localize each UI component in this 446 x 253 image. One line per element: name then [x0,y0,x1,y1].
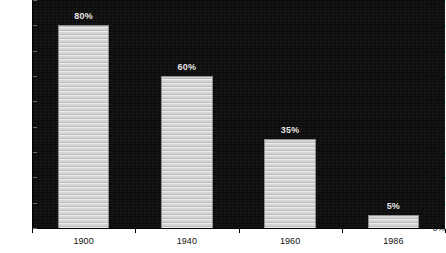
bar-group: 60% [161,0,213,228]
y-axis-tick-label: 90% [417,0,445,5]
y-axis-tick-label: 30% [417,147,445,157]
bar[interactable] [161,76,213,228]
y-axis-tick-mark [33,51,37,52]
y-axis-tick-mark [33,152,37,153]
x-axis-tick-label: 1986 [383,236,403,246]
x-axis-tick-mark [135,229,136,233]
y-axis-tick-label: 40% [417,122,445,132]
x-axis-tick-mark [239,229,240,233]
x-axis-tick-label: 1940 [177,236,197,246]
x-axis-tick-label: 1900 [74,236,94,246]
y-axis-tick-mark [33,127,37,128]
y-axis-tick-mark [33,76,37,77]
y-axis-tick-mark [33,25,37,26]
y-axis-tick-mark [33,177,37,178]
y-axis-tick-label: 50% [417,96,445,106]
y-axis-tick-label: 10% [417,198,445,208]
x-axis-tick-mark [32,229,33,233]
plot-area: 80%60%35%5% [32,0,445,228]
bar-group: 5% [368,0,420,228]
x-axis-tick-mark [342,229,343,233]
bar-value-label: 80% [74,11,93,21]
y-axis-tick-label: 20% [417,172,445,182]
y-axis-tick-label: 60% [417,71,445,81]
y-axis-line [32,0,33,229]
y-axis-tick-mark [33,228,37,229]
bar[interactable] [264,139,316,228]
y-axis-tick-mark [33,101,37,102]
y-axis-tick-mark [33,0,37,1]
bar-group: 35% [264,0,316,228]
bar[interactable] [58,25,110,228]
bar-value-label: 60% [178,62,197,72]
y-axis-tick-label: 0% [417,223,445,233]
bar-value-label: 5% [387,201,400,211]
y-axis-tick-mark [33,203,37,204]
bar[interactable] [368,215,420,228]
bar-group: 80% [58,0,110,228]
y-axis-tick-label: 70% [417,46,445,56]
x-axis-tick-label: 1960 [280,236,300,246]
bar-value-label: 35% [281,125,300,135]
y-axis-tick-label: 80% [417,20,445,30]
